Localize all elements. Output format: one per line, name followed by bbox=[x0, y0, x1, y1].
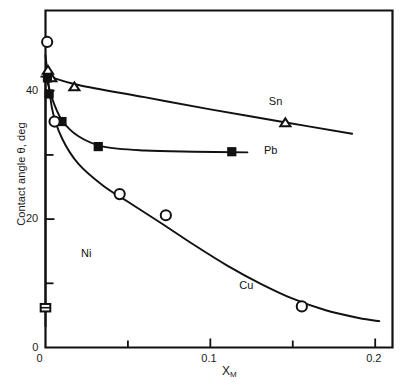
data-point-cu bbox=[49, 116, 59, 126]
x-tick-label: 0.1 bbox=[201, 352, 216, 364]
data-point-cu bbox=[161, 210, 171, 220]
series-label-ni: Ni bbox=[81, 247, 91, 259]
data-point-cu bbox=[297, 301, 307, 311]
contact-angle-chart-figure: Contact angle θ, deg XM 00.10.202040 SnP… bbox=[0, 0, 409, 388]
y-tick-label: 40 bbox=[26, 84, 38, 96]
plot-border bbox=[46, 11, 393, 348]
y-axis-label: Contact angle θ, deg bbox=[15, 99, 27, 249]
series-markers bbox=[41, 37, 307, 327]
data-point-pb bbox=[43, 73, 52, 82]
series-curves bbox=[46, 55, 380, 321]
x-tick-label: 0 bbox=[37, 352, 43, 364]
x-axis-label: XM bbox=[222, 364, 237, 379]
data-point-cu bbox=[42, 37, 52, 47]
series-label-sn: Sn bbox=[269, 95, 282, 107]
plot-frame bbox=[46, 11, 393, 348]
plot-canvas bbox=[0, 0, 409, 388]
x-tick-label: 0.2 bbox=[366, 352, 381, 364]
data-point-pb bbox=[227, 147, 236, 156]
x-axis-label-subscript: M bbox=[230, 370, 237, 379]
data-point-pb bbox=[94, 142, 103, 151]
y-tick-label: 0 bbox=[32, 341, 38, 353]
series-label-cu: Cu bbox=[239, 279, 253, 291]
data-point-ni bbox=[41, 77, 51, 327]
curve-cu bbox=[46, 55, 380, 321]
y-tick-label: 20 bbox=[26, 212, 38, 224]
x-axis-label-base: X bbox=[222, 364, 230, 378]
series-label-pb: Pb bbox=[264, 144, 277, 156]
curve-sn bbox=[46, 75, 353, 133]
data-point-cu bbox=[115, 189, 125, 199]
data-point-sn bbox=[280, 118, 290, 126]
